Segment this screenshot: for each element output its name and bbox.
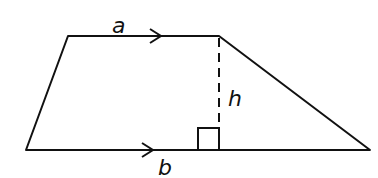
label-b: b bbox=[158, 155, 172, 178]
trapezoid-diagram: a h b bbox=[0, 0, 378, 178]
label-h: h bbox=[228, 86, 242, 111]
right-angle-marker bbox=[198, 128, 219, 150]
label-a: a bbox=[112, 13, 125, 38]
